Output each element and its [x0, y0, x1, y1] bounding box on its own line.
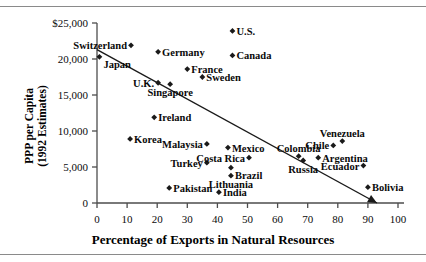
data-point-label: Costa Rica [196, 152, 245, 163]
x-tick-label: 100 [390, 213, 407, 225]
data-point-marker [155, 49, 161, 55]
data-point-label: Korea [134, 133, 162, 144]
data-point-marker [184, 66, 190, 72]
x-tick-label: 60 [272, 213, 283, 225]
data-point-label: Malaysia [162, 138, 203, 149]
data-point-marker [360, 163, 366, 169]
x-tick-label: 0 [94, 213, 100, 225]
data-point-label: Japan [103, 58, 130, 69]
data-point-label: Singapore [147, 87, 192, 98]
data-point-label: India [223, 187, 247, 198]
y-axis-title: PPP per Capita (1992 Estimates) [23, 46, 49, 206]
y-axis-title-line2: (1992 Estimates) [36, 85, 48, 166]
data-point-label: Russia [288, 163, 318, 174]
data-point-marker [230, 53, 236, 59]
x-tick-label: 50 [242, 213, 253, 225]
x-tick-label: 10 [122, 213, 133, 225]
x-tick-label: 70 [302, 213, 313, 225]
y-axis-title-line1: PPP per Capita [23, 88, 35, 164]
data-point-label: Germany [162, 46, 205, 57]
data-point-label: Venezuela [320, 128, 365, 139]
data-point-marker [230, 28, 236, 34]
y-tick-label: $25,000 [0, 17, 88, 29]
data-point-marker [246, 155, 252, 161]
data-point-marker [127, 136, 133, 142]
data-point-label: Bolivia [372, 182, 404, 193]
data-point-marker [365, 184, 371, 190]
data-point-marker [225, 145, 231, 151]
data-point-label: Switzerland [73, 40, 127, 51]
data-point-label: Ireland [158, 112, 191, 123]
data-point-marker [166, 185, 172, 191]
data-point-marker [216, 189, 222, 195]
data-point-label: Pakistan [173, 182, 212, 193]
x-axis-title: Percentage of Exports in Natural Resourc… [0, 232, 426, 248]
x-tick-label: 20 [152, 213, 163, 225]
x-tick-label: 90 [362, 213, 373, 225]
data-point-marker [204, 141, 210, 147]
data-point-label: Sweden [206, 72, 240, 83]
data-point-marker [330, 143, 336, 149]
x-tick-label: 40 [212, 213, 223, 225]
x-tick-label: 80 [332, 213, 343, 225]
x-tick-label: 30 [182, 213, 193, 225]
data-point-marker [128, 42, 134, 48]
data-point-label: Ecuador [321, 160, 360, 171]
data-point-marker [151, 114, 157, 120]
data-point-marker [228, 165, 234, 171]
scatter-chart-figure: 05,00010,00015,00020,000$25,000010203040… [0, 0, 426, 262]
data-point-label: Canada [236, 50, 271, 61]
data-point-label: Chile [305, 140, 329, 151]
data-point-marker [339, 138, 345, 144]
data-point-label: U.S. [236, 25, 255, 36]
data-point-marker [199, 74, 205, 80]
